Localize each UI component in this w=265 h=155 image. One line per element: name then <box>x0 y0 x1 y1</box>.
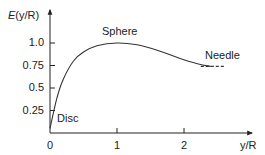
annotation-disc: Disc <box>57 113 78 124</box>
chart-plot-area <box>0 0 265 155</box>
y-tick-label-0.25: 0.25 <box>4 105 44 116</box>
x-axis-label: y/R <box>240 140 257 151</box>
y-axis-label: E(y/R) <box>8 10 39 21</box>
annotation-needle: Needle <box>205 50 240 61</box>
x-tick-label-0: 0 <box>47 140 53 151</box>
y-axis-label-rest: (y/R) <box>15 9 39 21</box>
y-tick-label-0.5: 0.5 <box>4 82 44 93</box>
x-axis-ticks <box>117 128 184 133</box>
x-tick-label-2: 2 <box>181 140 187 151</box>
y-tick-label-1.0: 1.0 <box>4 37 44 48</box>
y-axis-ticks <box>50 43 55 111</box>
annotation-sphere: Sphere <box>102 26 137 37</box>
y-tick-label-0.75: 0.75 <box>4 60 44 71</box>
x-tick-label-1: 1 <box>114 140 120 151</box>
